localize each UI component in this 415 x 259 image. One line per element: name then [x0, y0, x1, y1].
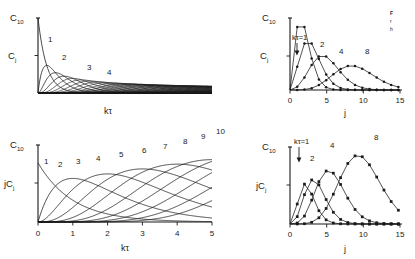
data-point — [354, 84, 357, 87]
data-point — [325, 73, 328, 76]
data-point — [318, 55, 321, 58]
panel-jcj-vs-j: C10 jCj kτ=1 2 4 8 0 5 10 15 j — [250, 120, 415, 259]
ylabel-top-c10: C10 — [262, 141, 276, 154]
ylabel-top-c10: C10 — [262, 12, 276, 25]
figure-root: C10 Cj kτ 1 2 3 4 — [0, 0, 415, 259]
panel-cj-vs-ktau: C10 Cj kτ 1 2 3 4 — [0, 2, 215, 120]
data-point — [383, 81, 386, 84]
data-point — [318, 78, 321, 81]
series-line — [290, 57, 398, 90]
data-point — [332, 193, 335, 196]
curve-j-6 — [38, 160, 212, 222]
series-line — [290, 184, 398, 224]
curve-label-1: 1 — [48, 35, 53, 44]
data-point — [339, 87, 342, 90]
data-point — [296, 26, 299, 29]
curve-j-5 — [38, 164, 212, 222]
ylabel-cj: Cj — [260, 50, 268, 63]
data-point — [332, 88, 335, 91]
data-point — [325, 55, 328, 58]
panel-jcj-vs-ktau: C10 jCj 12345678910 0 1 2 3 4 5 kτ — [0, 120, 230, 259]
data-point — [368, 219, 371, 222]
curve-label-5: 5 — [119, 150, 124, 159]
data-point — [318, 209, 321, 212]
data-point — [318, 216, 321, 219]
xtick-5: 5 — [324, 230, 329, 239]
annotation-arrow — [297, 147, 302, 163]
curves-bottom-right — [290, 155, 400, 226]
xtick-10: 10 — [359, 96, 368, 105]
data-point — [368, 72, 371, 75]
xlabel-j: j — [343, 108, 346, 118]
data-point — [303, 42, 306, 45]
data-point — [325, 198, 328, 201]
data-point — [303, 193, 306, 196]
data-point — [303, 215, 306, 218]
ylabel-jcj: jCj — [3, 178, 14, 191]
data-point — [310, 57, 313, 60]
curve-label-10: 10 — [216, 127, 225, 136]
annotation-ktau-1: kτ=1 — [294, 137, 309, 146]
data-point — [296, 223, 299, 226]
curve-labels-top-left: 1 2 3 4 — [48, 35, 112, 77]
xtick-5: 5 — [324, 96, 329, 105]
data-point — [318, 58, 321, 61]
xlabel-j: j — [343, 244, 346, 254]
ylabel-top-c10: C10 — [10, 12, 24, 25]
curve-label-8: 8 — [365, 47, 370, 56]
data-point — [354, 222, 357, 225]
data-point — [325, 79, 328, 82]
data-point — [397, 209, 400, 212]
data-point — [296, 89, 299, 92]
data-point — [318, 84, 321, 87]
data-point — [397, 89, 400, 92]
data-point — [361, 155, 364, 158]
data-point — [303, 26, 306, 29]
xtick-2: 2 — [105, 229, 110, 238]
data-point — [332, 62, 335, 65]
curve-label-6: 6 — [142, 146, 147, 155]
ylabel-top-c10: C10 — [10, 139, 24, 152]
curve-labels-bottom-left: 12345678910 — [44, 127, 225, 169]
data-point — [375, 176, 378, 179]
data-point — [397, 86, 400, 89]
data-point — [310, 64, 313, 67]
data-point — [339, 183, 342, 186]
data-point — [332, 222, 335, 225]
data-point — [375, 88, 378, 91]
data-point — [347, 88, 350, 91]
data-point — [390, 89, 393, 92]
series-ktau-2 — [290, 179, 400, 226]
data-point — [310, 199, 313, 202]
curve-label-9: 9 — [201, 132, 206, 141]
curve-label-3: 3 — [87, 63, 92, 72]
ylabel-cj: Cj — [8, 50, 16, 63]
data-point — [375, 76, 378, 79]
plot-area-jcj-vs-j: C10 jCj kτ=1 2 4 8 0 5 10 15 j — [250, 120, 415, 259]
data-point — [339, 218, 342, 221]
data-point — [339, 68, 342, 71]
curve-label-2: 2 — [310, 154, 315, 163]
data-point — [383, 89, 386, 92]
data-point — [325, 207, 328, 210]
data-point — [354, 65, 357, 68]
data-point — [390, 223, 393, 226]
data-point — [368, 223, 371, 226]
curve-labels-top-right: 2 4 8 — [320, 40, 370, 56]
curve-label-4: 4 — [339, 47, 344, 56]
data-point — [332, 83, 335, 86]
data-point — [303, 76, 306, 79]
data-point — [310, 221, 313, 224]
xtick-10: 10 — [359, 230, 368, 239]
data-point — [303, 222, 306, 225]
curve-j-10 — [38, 201, 212, 222]
series-ktau-2 — [290, 42, 400, 91]
xtick-15: 15 — [396, 96, 405, 105]
data-point — [296, 215, 299, 218]
data-point — [339, 176, 342, 179]
curve-label-8: 8 — [374, 133, 379, 142]
curves-bottom-left — [38, 160, 212, 222]
curve-label-2: 2 — [58, 160, 63, 169]
xlabel-ktau: kτ — [121, 243, 130, 253]
data-point — [310, 193, 313, 196]
